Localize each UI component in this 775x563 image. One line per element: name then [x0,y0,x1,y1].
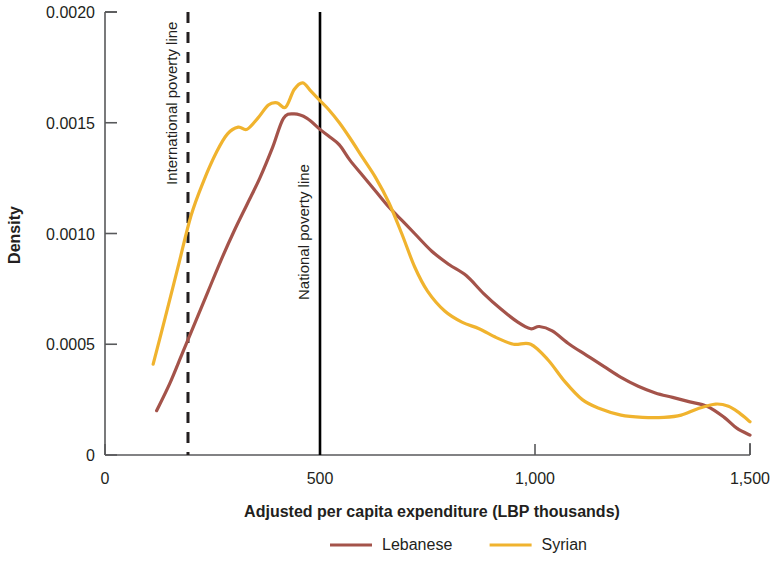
y-tick-label: 0.0020 [46,4,95,21]
data-series-group [153,83,750,435]
x-tick-label: 1,500 [730,470,770,487]
international-poverty-line-label: International poverty line [163,22,180,185]
y-tick-label: 0.0010 [46,226,95,243]
y-axis-title: Density [6,206,23,264]
legend-label-syrian: Syrian [542,536,587,553]
x-axis-title: Adjusted per capita expenditure (LBP tho… [244,503,620,520]
x-tick-label: 0 [101,470,110,487]
chart-canvas: 00.00050.00100.00150.0020 05001,0001,500… [0,0,775,563]
axis-lines [105,12,750,455]
x-tick-label: 500 [307,470,334,487]
x-tick-label: 1,000 [515,470,555,487]
y-tick-label: 0 [86,447,95,464]
y-tick-label: 0.0015 [46,115,95,132]
y-axis-ticks: 00.00050.00100.00150.0020 [46,4,117,464]
chart-legend: LebaneseSyrian [330,536,587,553]
x-axis-ticks: 05001,0001,500 [101,444,771,487]
series-line-syrian [153,83,750,422]
y-tick-label: 0.0005 [46,336,95,353]
national-poverty-line-label: National poverty line [295,164,312,300]
density-chart-figure: 00.00050.00100.00150.0020 05001,0001,500… [0,0,775,563]
series-line-lebanese [157,114,750,435]
legend-label-lebanese: Lebanese [382,536,452,553]
